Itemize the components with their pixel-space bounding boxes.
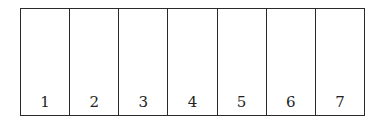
cell-3: 3 [119,9,168,115]
cell-label: 7 [316,93,364,111]
cell-label: 5 [218,93,266,111]
cell-label: 3 [119,93,167,111]
cell-6: 6 [267,9,316,115]
cell-7: 7 [316,9,364,115]
cell-label: 1 [21,93,69,111]
cell-1: 1 [21,9,70,115]
cell-label: 6 [267,93,315,111]
cell-label: 2 [70,93,118,111]
cell-2: 2 [70,9,119,115]
cell-label: 4 [168,93,216,111]
numbered-cell-strip: 1 2 3 4 5 6 7 [20,8,365,116]
cell-5: 5 [218,9,267,115]
cell-4: 4 [168,9,217,115]
